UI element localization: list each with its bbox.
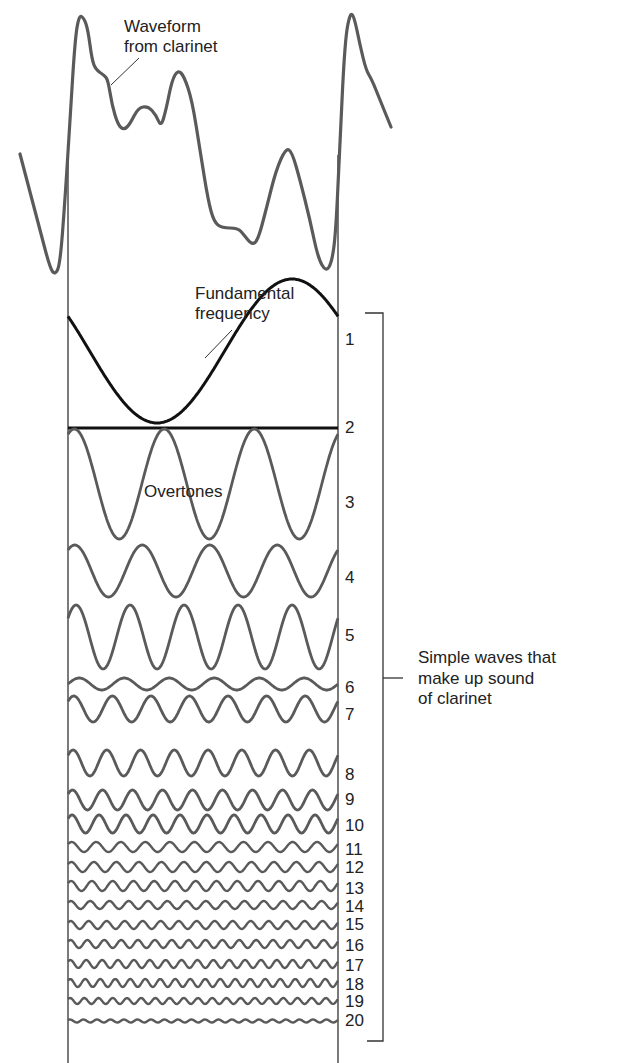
waveform-label-line2: from clarinet [124,37,218,57]
harmonic-number-19: 19 [345,993,364,1011]
harmonic-number-12: 12 [345,859,364,877]
harmonic-waves [68,279,338,1023]
fundamental-label-line2: frequency [195,304,294,324]
harmonic-number-17: 17 [345,957,364,975]
harmonic-wave-6 [68,678,338,690]
bracket [365,313,403,1041]
overtones-label: Overtones [144,482,222,502]
harmonic-wave-4 [68,545,338,597]
harmonic-wave-17 [68,960,338,968]
harmonic-wave-19 [68,998,338,1004]
bracket-label-line3: of clarinet [418,689,556,710]
harmonic-number-7: 7 [345,706,354,724]
harmonic-number-5: 5 [345,627,354,645]
harmonic-wave-13 [68,881,338,891]
harmonic-number-15: 15 [345,916,364,934]
harmonic-wave-9 [68,790,338,810]
harmonic-wave-14 [68,901,338,909]
harmonic-wave-12 [68,862,338,872]
harmonic-wave-10 [68,815,338,833]
harmonic-wave-15 [68,921,338,929]
harmonic-number-8: 8 [345,766,354,784]
harmonic-number-13: 13 [345,880,364,898]
fundamental-label-line1: Fundamental [195,284,294,304]
harmonic-number-9: 9 [345,791,354,809]
harmonic-number-16: 16 [345,937,364,955]
fundamental-label: Fundamental frequency [195,284,294,324]
harmonic-number-3: 3 [345,494,354,512]
harmonic-number-14: 14 [345,898,364,916]
harmonic-wave-18 [68,979,338,987]
harmonic-number-1: 1 [345,331,354,349]
waveform-leader-line [111,58,139,85]
bracket-label-line1: Simple waves that [418,648,556,669]
harmonic-wave-16 [68,940,338,948]
harmonic-number-6: 6 [345,679,354,697]
harmonic-wave-5 [68,605,338,669]
harmonic-wave-20 [68,1020,338,1023]
harmonic-number-2: 2 [345,419,354,437]
waveform-label: Waveform from clarinet [124,17,218,57]
harmonic-number-10: 10 [345,817,364,835]
waveform-label-line1: Waveform [124,17,218,37]
clarinet-waveform-diagram [0,0,620,1063]
harmonic-wave-8 [68,750,338,776]
bracket-label: Simple waves that make up sound of clari… [418,648,556,710]
harmonic-wave-7 [68,696,338,722]
bracket-label-line2: make up sound [418,669,556,690]
harmonic-number-4: 4 [345,569,354,587]
harmonic-wave-11 [68,842,338,852]
harmonic-number-20: 20 [345,1012,364,1030]
harmonic-number-11: 11 [345,841,363,859]
bracket-line [365,313,383,1041]
